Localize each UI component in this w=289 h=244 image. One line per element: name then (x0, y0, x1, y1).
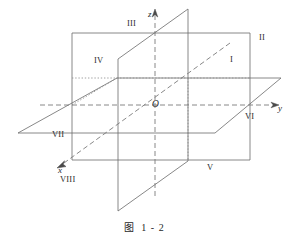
figure-caption: 图1 - 2 (0, 219, 289, 234)
octant-label-VIII: VIII (60, 175, 75, 184)
figure-container: III z II I IV O y VI VII x VIII V 图1 - 2 (0, 0, 289, 244)
z-axis-arrowhead (152, 9, 158, 17)
origin-label: O (152, 100, 159, 110)
octant-diagram-svg (0, 0, 289, 244)
caption-number: 1 - 2 (141, 222, 164, 233)
x-axis-line (64, 43, 230, 163)
octant-label-VI: VI (245, 112, 254, 121)
octant-label-V: V (207, 163, 213, 172)
plane-xoz-outline (118, 9, 188, 211)
plane-yoz-outline (72, 33, 250, 160)
hidden-edges-group (72, 78, 250, 161)
octant-label-II: II (259, 33, 265, 42)
y-axis-label: y (278, 104, 282, 113)
octant-label-VII: VII (52, 130, 64, 139)
plane-yoz (72, 33, 250, 160)
caption-prefix: 图 (124, 222, 135, 233)
plane-xoy (18, 78, 281, 133)
plane-xoy-outline (18, 78, 281, 133)
octant-label-III: III (127, 19, 136, 28)
plane-xoz (118, 9, 188, 211)
octant-label-IV: IV (94, 56, 103, 65)
z-axis-label: z (148, 10, 152, 19)
octant-label-I: I (230, 55, 233, 64)
